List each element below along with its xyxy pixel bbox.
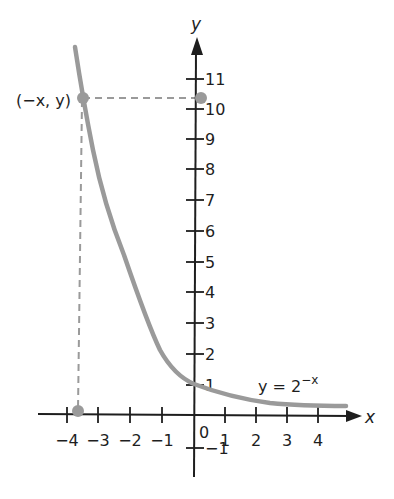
equation-exponent: −x bbox=[301, 373, 318, 387]
y-tick-label: 10 bbox=[205, 100, 225, 119]
origin-label: 0 bbox=[199, 423, 209, 442]
y-tick-label: 6 bbox=[205, 222, 215, 241]
y-tick-label: 3 bbox=[205, 314, 215, 333]
x-tick-label: −4 bbox=[55, 431, 79, 450]
x-tick-label: 2 bbox=[251, 431, 261, 450]
y-tick-label: 5 bbox=[205, 253, 215, 272]
y-tick-label: 4 bbox=[205, 283, 215, 302]
equation-base: y = 2 bbox=[258, 377, 301, 396]
y-tick-label: 2 bbox=[205, 345, 215, 364]
x-tick-label: −2 bbox=[118, 431, 142, 450]
x-tick-label: 4 bbox=[313, 431, 323, 450]
y-tick-label: 7 bbox=[205, 191, 215, 210]
x-tick-label: −1 bbox=[150, 431, 174, 450]
y-tick-label: 8 bbox=[205, 160, 215, 179]
x-axis-label: x bbox=[364, 407, 376, 427]
y-axis bbox=[194, 50, 196, 477]
equation-label: y = 2−x bbox=[258, 373, 318, 396]
exponential-graph: −4−3−2−11234 1110987654321−1 y x (−x, y)… bbox=[0, 0, 394, 499]
x-axis-arrow-icon bbox=[346, 410, 362, 422]
curve-point-marker bbox=[77, 92, 89, 104]
x-tick-label: 3 bbox=[282, 431, 292, 450]
x-axis-point-marker bbox=[72, 405, 84, 417]
y-axis-arrow-icon bbox=[191, 37, 203, 55]
graph-canvas: −4−3−2−11234 1110987654321−1 y x (−x, y)… bbox=[0, 0, 394, 499]
point-label: (−x, y) bbox=[16, 91, 71, 110]
y-axis-point-marker bbox=[195, 92, 207, 104]
y-axis-ticks: 1110987654321−1 bbox=[186, 70, 229, 458]
y-axis-label: y bbox=[190, 14, 202, 34]
y-tick-label: 9 bbox=[205, 130, 215, 149]
vertical-projection-line bbox=[78, 100, 82, 410]
y-tick-label: 11 bbox=[205, 70, 225, 89]
x-tick-label: −3 bbox=[86, 431, 110, 450]
